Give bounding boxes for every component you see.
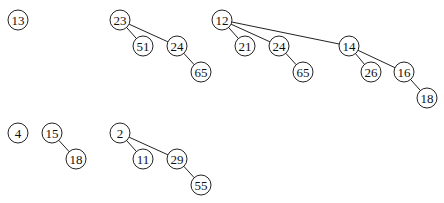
- tree-edge: [229, 28, 239, 39]
- tree-edge: [184, 166, 194, 177]
- node-label: 21: [239, 39, 252, 54]
- heap-node: 14: [339, 36, 359, 56]
- tree-edge: [127, 28, 137, 39]
- node-label: 14: [343, 39, 357, 54]
- node-label: 2: [117, 126, 124, 141]
- node-label: 26: [365, 65, 379, 80]
- node-label: 51: [137, 39, 150, 54]
- heap-node: 29: [167, 149, 187, 169]
- tree-edge: [184, 53, 194, 64]
- heap-node: 12: [212, 10, 232, 30]
- heap-node: 65: [293, 62, 313, 82]
- node-label: 24: [171, 39, 185, 54]
- heap-node: 4: [8, 123, 28, 143]
- heap-node: 15: [42, 123, 62, 143]
- heap-node: 2: [110, 123, 130, 143]
- tree-edge: [286, 53, 296, 64]
- node-label: 13: [12, 13, 25, 28]
- node-label: 65: [195, 65, 208, 80]
- heap-node: 24: [167, 36, 187, 56]
- tree-edge: [411, 80, 421, 91]
- tree-edge: [356, 54, 365, 65]
- tree-edge: [59, 140, 69, 151]
- heap-node: 65: [191, 62, 211, 82]
- heap-node: 55: [191, 175, 211, 195]
- heap-node: 11: [133, 149, 153, 169]
- node-label: 55: [195, 178, 208, 193]
- node-label: 18: [421, 91, 434, 106]
- binomial-heap-diagram: 13235124651221246514261618415182112955: [0, 0, 444, 203]
- heap-node: 21: [235, 36, 255, 56]
- heap-node: 26: [361, 62, 381, 82]
- node-label: 65: [297, 65, 310, 80]
- node-label: 16: [398, 65, 412, 80]
- heap-node: 23: [110, 10, 130, 30]
- node-label: 15: [46, 126, 59, 141]
- node-label: 12: [216, 13, 229, 28]
- heap-node: 51: [133, 36, 153, 56]
- node-label: 18: [70, 152, 83, 167]
- heap-node: 13: [8, 10, 28, 30]
- heap-node: 18: [417, 88, 437, 108]
- node-label: 23: [114, 13, 127, 28]
- tree-edge: [127, 141, 137, 152]
- node-label: 24: [273, 39, 287, 54]
- heap-node: 24: [269, 36, 289, 56]
- heap-node: 18: [66, 149, 86, 169]
- heap-node: 16: [394, 62, 414, 82]
- node-label: 11: [137, 152, 150, 167]
- node-label: 4: [15, 126, 22, 141]
- nodes-layer: 13235124651221246514261618415182112955: [8, 10, 437, 195]
- node-label: 29: [171, 152, 184, 167]
